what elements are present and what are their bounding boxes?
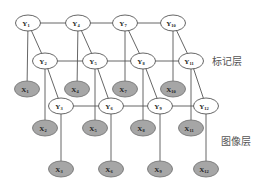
- node-y7: Y7: [113, 15, 138, 31]
- node-x6: X6: [99, 161, 124, 177]
- node-y10: Y10: [161, 15, 186, 31]
- node-x11: X11: [179, 120, 204, 136]
- node-y9: Y9: [148, 98, 173, 114]
- node-x3: X3: [49, 161, 74, 177]
- node-x7: X7: [113, 81, 138, 97]
- node-y12: Y12: [194, 98, 219, 114]
- node-x10: X10: [161, 81, 186, 97]
- mrf-grid-diagram: Y1Y2Y3Y4Y5Y6Y7Y8Y9Y10Y11Y12X1X2X3X4X5X6X…: [0, 0, 263, 189]
- node-y2: Y2: [33, 53, 58, 69]
- node-x5: X5: [83, 120, 108, 136]
- node-y4: Y4: [66, 15, 91, 31]
- node-y8: Y8: [131, 53, 156, 69]
- node-x9: X9: [148, 161, 173, 177]
- edge-y1-x1: [27, 23, 28, 89]
- node-y11: Y11: [179, 53, 204, 69]
- node-y5: Y5: [83, 53, 108, 69]
- label-layer-caption: 标记层: [212, 56, 242, 67]
- node-x1: X1: [15, 81, 40, 97]
- edge-y4-x4: [77, 23, 78, 89]
- node-y1: Y1: [16, 15, 41, 31]
- image-layer-caption: 图像层: [221, 136, 251, 147]
- node-x8: X8: [131, 120, 156, 136]
- node-x12: X12: [194, 161, 219, 177]
- node-x2: X2: [33, 120, 58, 136]
- node-y3: Y3: [49, 98, 74, 114]
- node-x4: X4: [65, 81, 90, 97]
- node-y6: Y6: [99, 98, 124, 114]
